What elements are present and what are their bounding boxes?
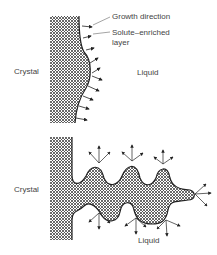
solute-layer-label-line2: layer <box>112 38 129 47</box>
solute-layer-label-line1: Solute–enriched <box>112 28 170 37</box>
dendrite-diagram <box>0 0 217 255</box>
growth-direction-label: Growth direction <box>112 12 170 21</box>
top-crystal-label: Crystal <box>14 67 39 76</box>
bottom-liquid-label: Liquid <box>138 236 159 245</box>
bottom-crystal-label: Crystal <box>14 185 39 194</box>
top-liquid-label: Liquid <box>137 68 158 77</box>
top-leader-lines <box>93 17 110 34</box>
top-crystal <box>50 16 90 123</box>
